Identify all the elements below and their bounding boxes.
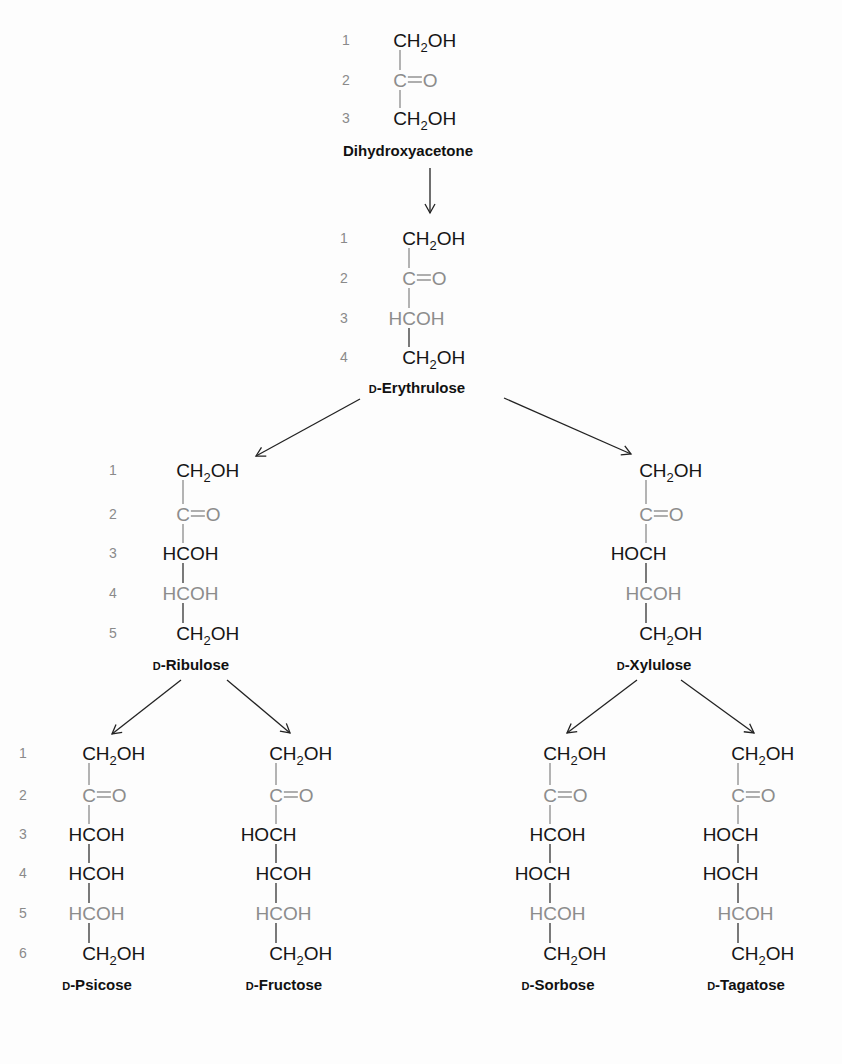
arrow-d-xylulose-to-d-sorbose bbox=[567, 680, 637, 733]
arrow-d-ribulose-to-d-psicose bbox=[112, 680, 181, 734]
carbon-number: 3 bbox=[340, 310, 348, 326]
group-c-double-o: C bbox=[176, 504, 190, 525]
oxygen-atom: O bbox=[206, 504, 221, 525]
molecule-name: Dihydroxyacetone bbox=[343, 142, 473, 159]
carbon-number: 1 bbox=[109, 462, 117, 478]
molecule-d-fructose: CH2OHCOHOCHHCOHHCOHCH2OHD-Fructose bbox=[241, 743, 333, 993]
group-hcoh: HCOH bbox=[529, 824, 585, 845]
group-hcoh: HCOH bbox=[162, 543, 218, 564]
group-hcoh: HCOH bbox=[255, 863, 311, 884]
group-hcoh: HCOH bbox=[388, 308, 444, 329]
carbon-number: 5 bbox=[109, 625, 117, 641]
group-hoch: HOCH bbox=[703, 863, 759, 884]
group-ch2oh: CH2OH bbox=[543, 743, 606, 768]
arrow-d-ribulose-to-d-fructose bbox=[227, 680, 290, 733]
carbon-number: 3 bbox=[342, 110, 350, 126]
molecule-name: D-Fructose bbox=[246, 976, 322, 993]
oxygen-atom: O bbox=[299, 785, 314, 806]
group-hcoh: HCOH bbox=[717, 903, 773, 924]
group-ch2oh: CH2OH bbox=[176, 623, 239, 648]
group-ch2oh: CH2OH bbox=[269, 743, 332, 768]
group-c-double-o: C bbox=[639, 504, 653, 525]
molecule-name: D-Tagatose bbox=[707, 976, 785, 993]
carbon-number: 5 bbox=[19, 905, 27, 921]
molecule-name: D-Ribulose bbox=[153, 656, 229, 673]
carbon-number: 2 bbox=[109, 506, 117, 522]
group-ch2oh: CH2OH bbox=[82, 743, 145, 768]
group-hoch: HOCH bbox=[611, 543, 667, 564]
carbon-number: 6 bbox=[19, 945, 27, 961]
oxygen-atom: O bbox=[761, 785, 776, 806]
group-ch2oh: CH2OH bbox=[393, 30, 456, 55]
molecule-name: D-Xylulose bbox=[617, 656, 692, 673]
oxygen-atom: O bbox=[432, 268, 447, 289]
group-ch2oh: CH2OH bbox=[731, 743, 794, 768]
carbon-number: 4 bbox=[340, 349, 348, 365]
ketose-derivation-tree: 1CH2OH2CO3CH2OHDihydroxyacetone1CH2OH2CO… bbox=[0, 0, 842, 1064]
group-hoch: HOCH bbox=[241, 824, 297, 845]
carbon-number: 4 bbox=[19, 865, 27, 881]
group-ch2oh: CH2OH bbox=[731, 943, 794, 968]
molecule-d-erythrulose: 1CH2OH2CO3HCOH4CH2OHD-Erythrulose bbox=[340, 228, 465, 396]
molecule-d-psicose: 1CH2OH2CO3HCOH4HCOH5HCOH6CH2OHD-Psicose bbox=[19, 743, 145, 993]
group-ch2oh: CH2OH bbox=[402, 347, 465, 372]
group-c-double-o: C bbox=[82, 785, 96, 806]
carbon-number: 3 bbox=[19, 826, 27, 842]
oxygen-atom: O bbox=[573, 785, 588, 806]
arrow-d-erythrulose-to-d-xylulose bbox=[504, 398, 631, 454]
molecule-dihydroxyacetone: 1CH2OH2CO3CH2OHDihydroxyacetone bbox=[342, 30, 473, 159]
group-ch2oh: CH2OH bbox=[82, 943, 145, 968]
molecules-layer: 1CH2OH2CO3CH2OHDihydroxyacetone1CH2OH2CO… bbox=[19, 30, 794, 993]
oxygen-atom: O bbox=[669, 504, 684, 525]
group-ch2oh: CH2OH bbox=[639, 460, 702, 485]
carbon-number: 2 bbox=[19, 787, 27, 803]
carbon-number: 2 bbox=[342, 72, 350, 88]
group-ch2oh: CH2OH bbox=[269, 943, 332, 968]
group-hcoh: HCOH bbox=[68, 824, 124, 845]
group-ch2oh: CH2OH bbox=[543, 943, 606, 968]
molecule-name: D-Sorbose bbox=[522, 976, 595, 993]
group-ch2oh: CH2OH bbox=[176, 460, 239, 485]
carbon-number: 1 bbox=[342, 32, 350, 48]
group-hcoh: HCOH bbox=[625, 583, 681, 604]
group-hcoh: HCOH bbox=[529, 903, 585, 924]
group-c-double-o: C bbox=[731, 785, 745, 806]
molecule-d-tagatose: CH2OHCOHOCHHOCHHCOHCH2OHD-Tagatose bbox=[703, 743, 795, 993]
group-c-double-o: C bbox=[269, 785, 283, 806]
carbon-number: 1 bbox=[19, 745, 27, 761]
group-hcoh: HCOH bbox=[255, 903, 311, 924]
arrow-d-xylulose-to-d-tagatose bbox=[681, 680, 754, 733]
group-hoch: HOCH bbox=[703, 824, 759, 845]
oxygen-atom: O bbox=[112, 785, 127, 806]
carbon-number: 2 bbox=[340, 270, 348, 286]
group-c-double-o: C bbox=[393, 70, 407, 91]
group-hoch: HOCH bbox=[515, 863, 571, 884]
ketose-family-diagram: 1CH2OH2CO3CH2OHDihydroxyacetone1CH2OH2CO… bbox=[0, 0, 842, 1064]
group-ch2oh: CH2OH bbox=[639, 623, 702, 648]
molecule-d-ribulose: 1CH2OH2CO3HCOH4HCOH5CH2OHD-Ribulose bbox=[109, 460, 239, 673]
oxygen-atom: O bbox=[423, 70, 438, 91]
molecule-d-sorbose: CH2OHCOHCOHHOCHHCOHCH2OHD-Sorbose bbox=[515, 743, 607, 993]
carbon-number: 4 bbox=[109, 585, 117, 601]
group-hcoh: HCOH bbox=[68, 863, 124, 884]
group-c-double-o: C bbox=[543, 785, 557, 806]
molecule-name: D-Psicose bbox=[62, 976, 132, 993]
group-ch2oh: CH2OH bbox=[393, 108, 456, 133]
group-hcoh: HCOH bbox=[162, 583, 218, 604]
arrow-d-erythrulose-to-d-ribulose bbox=[256, 399, 360, 456]
carbon-number: 3 bbox=[109, 545, 117, 561]
group-ch2oh: CH2OH bbox=[402, 228, 465, 253]
group-hcoh: HCOH bbox=[68, 903, 124, 924]
molecule-name: D-Erythrulose bbox=[369, 379, 465, 396]
molecule-d-xylulose: CH2OHCOHOCHHCOHCH2OHD-Xylulose bbox=[611, 460, 703, 673]
group-c-double-o: C bbox=[402, 268, 416, 289]
carbon-number: 1 bbox=[340, 230, 348, 246]
